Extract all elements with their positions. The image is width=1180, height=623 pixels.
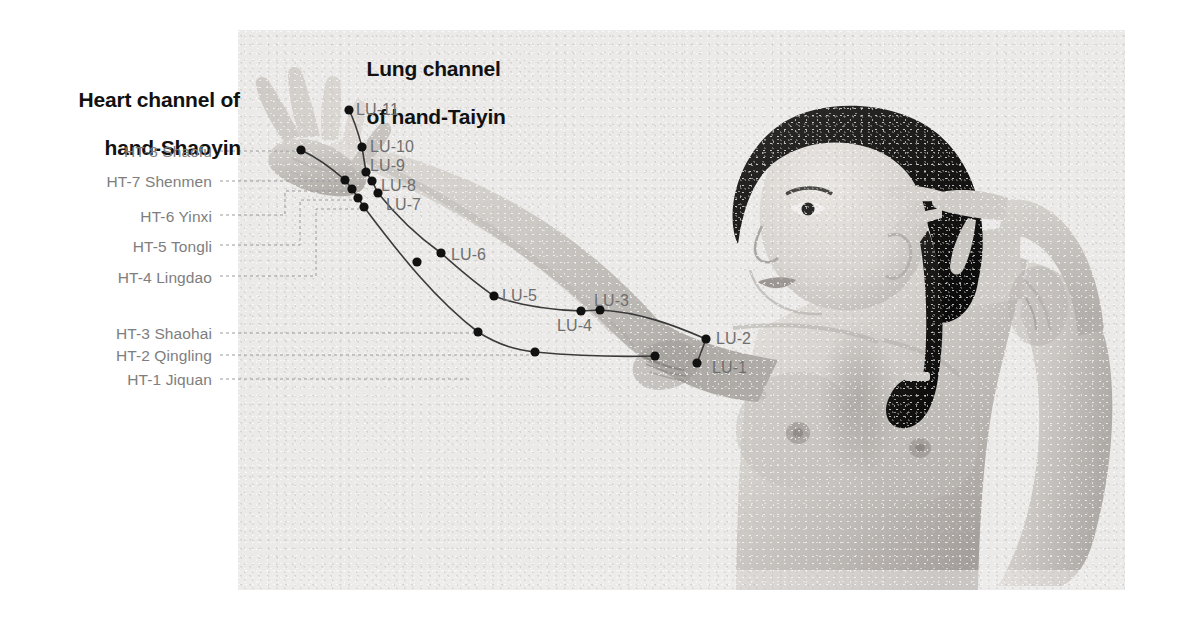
point-label-lu-11: LU-11 xyxy=(356,101,399,119)
point-label-lu-6: LU-6 xyxy=(451,246,486,264)
point-label-ht-4: HT-4 Lingdao xyxy=(12,269,212,286)
heart-heading-line1: Heart channel of xyxy=(79,88,240,111)
point-label-lu-10: LU-10 xyxy=(370,138,414,156)
figure-canvas: Heart channel of hand-Shaoyin Lung chann… xyxy=(0,0,1180,623)
point-label-ht-5: HT-5 Tongli xyxy=(12,238,212,255)
point-label-lu-1: LU-1 xyxy=(712,359,747,377)
lung-heading-line1: Lung channel xyxy=(367,57,501,80)
point-label-lu-2: LU-2 xyxy=(716,330,751,348)
point-label-lu-3: LU-3 xyxy=(594,292,629,310)
point-label-ht-7: HT-7 Shenmen xyxy=(12,173,212,190)
lung-channel-heading: Lung channel of hand-Taiyin xyxy=(344,33,506,153)
point-label-ht-2: HT-2 Qingling xyxy=(12,347,212,364)
heart-channel-heading: Heart channel of hand-Shaoyin xyxy=(56,64,241,184)
point-label-lu-8: LU-8 xyxy=(381,177,416,195)
point-label-ht-8: HT-8 Shaofu xyxy=(12,143,212,160)
point-label-ht-3: HT-3 Shaohai xyxy=(12,325,212,342)
point-label-lu-7: LU-7 xyxy=(386,196,421,214)
point-label-lu-4: LU-4 xyxy=(557,317,592,335)
point-label-lu-5: LU-5 xyxy=(502,287,537,305)
point-label-lu-9: LU-9 xyxy=(370,157,405,175)
point-label-ht-6: HT-6 Yinxi xyxy=(12,208,212,225)
point-label-ht-1: HT-1 Jiquan xyxy=(12,371,212,388)
